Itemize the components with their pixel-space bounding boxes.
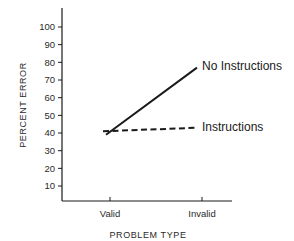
series-line-no-instructions [106, 68, 197, 135]
y-tick-label: 30 [44, 145, 55, 156]
y-tick-label: 40 [44, 127, 55, 138]
y-tick-label: 80 [44, 57, 55, 68]
x-category-valid: Valid [100, 208, 120, 219]
x-axis-title: PROBLEM TYPE [109, 230, 186, 240]
y-tick-label: 100 [39, 21, 55, 32]
y-tick-label: 70 [44, 74, 55, 85]
y-tick-label: 10 [44, 180, 55, 191]
chart-canvas: 102030405060708090100 Valid Invalid PROB… [0, 0, 294, 241]
y-ticks: 102030405060708090100 [39, 21, 62, 191]
y-axis-title: PERCENT ERROR [18, 62, 28, 148]
series-label-no-instructions: No Instructions [202, 59, 282, 73]
x-category-invalid: Invalid [188, 208, 215, 219]
series-line-instructions [103, 128, 198, 132]
series-label-instructions: Instructions [202, 120, 263, 134]
y-tick-label: 90 [44, 39, 55, 50]
y-tick-label: 20 [44, 163, 55, 174]
y-tick-label: 60 [44, 92, 55, 103]
y-tick-label: 50 [44, 110, 55, 121]
